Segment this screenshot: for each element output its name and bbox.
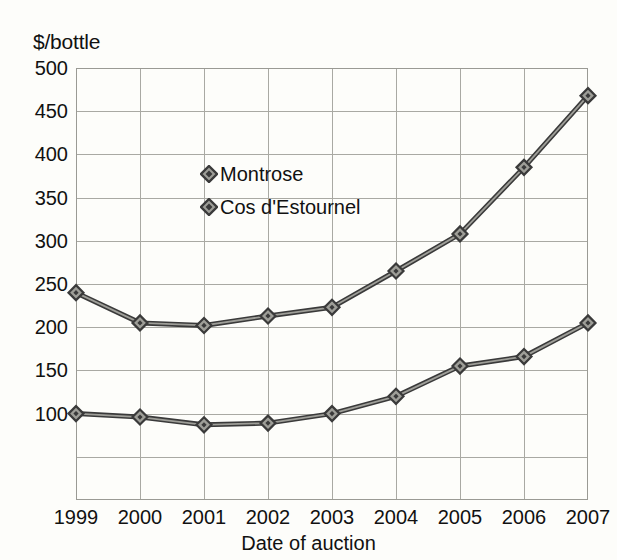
x-axis-tick-label: 2004 bbox=[361, 505, 431, 529]
x-axis-tick-label: 1999 bbox=[41, 505, 111, 529]
chart-legend: MontroseCos d'Estournel bbox=[200, 157, 430, 223]
x-axis-title: Date of auction bbox=[0, 532, 617, 555]
y-axis-tick-label: 300 bbox=[6, 231, 68, 251]
plot-area bbox=[76, 68, 588, 500]
y-axis-tick-labels: 500450400350300250200150100 bbox=[0, 68, 68, 500]
legend-label: Cos d'Estournel bbox=[220, 197, 361, 217]
legend-entry: Cos d'Estournel bbox=[200, 190, 430, 223]
y-axis-title: $/bottle bbox=[33, 30, 100, 54]
x-axis-tick-label: 2007 bbox=[553, 505, 617, 529]
y-axis-tick-label: 400 bbox=[6, 144, 68, 164]
legend-diamond-icon bbox=[200, 165, 218, 183]
y-axis-tick-label: 100 bbox=[6, 404, 68, 424]
x-axis-tick-labels: 199920002001200220032004200520062007 bbox=[76, 505, 588, 535]
legend-entry: Montrose bbox=[200, 157, 430, 190]
x-axis-tick-label: 2000 bbox=[105, 505, 175, 529]
y-axis-tick-label: 450 bbox=[6, 101, 68, 121]
y-axis-tick-label: 500 bbox=[6, 58, 68, 78]
legend-diamond-icon bbox=[200, 198, 218, 216]
x-axis-tick-label: 2006 bbox=[489, 505, 559, 529]
series-2 bbox=[69, 315, 596, 432]
x-axis-tick-label: 2005 bbox=[425, 505, 495, 529]
y-axis-tick-label: 250 bbox=[6, 274, 68, 294]
line-chart-figure: $/bottle 500450400350300250200150100 Mon… bbox=[0, 0, 617, 560]
y-axis-tick-label: 350 bbox=[6, 188, 68, 208]
x-axis-tick-label: 2001 bbox=[169, 505, 239, 529]
data-series-layer bbox=[76, 68, 588, 500]
legend-label: Montrose bbox=[220, 164, 303, 184]
x-axis-tick-label: 2002 bbox=[233, 505, 303, 529]
x-axis-tick-label: 2003 bbox=[297, 505, 367, 529]
y-axis-tick-label: 200 bbox=[6, 317, 68, 337]
y-axis-tick-label: 150 bbox=[6, 360, 68, 380]
